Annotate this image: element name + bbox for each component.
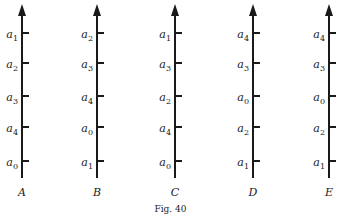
arrow-up-icon xyxy=(18,4,26,16)
tick-label: a4 xyxy=(229,29,249,44)
arrow-up-icon xyxy=(93,4,101,16)
tick-mark xyxy=(176,126,182,128)
tick-label: a0 xyxy=(0,157,18,172)
tick-mark xyxy=(254,62,260,64)
tick-mark xyxy=(23,95,29,97)
tick-mark xyxy=(330,95,336,97)
tick-label: a1 xyxy=(151,29,171,44)
tick-label: a1 xyxy=(229,157,249,172)
tick-mark xyxy=(330,32,336,34)
tick-mark xyxy=(254,32,260,34)
tick-label: a2 xyxy=(305,123,325,138)
tick-mark xyxy=(98,126,104,128)
tick-mark xyxy=(98,160,104,162)
tick-label: a3 xyxy=(305,59,325,74)
tick-label: a1 xyxy=(73,157,93,172)
figure-caption: Fig. 40 xyxy=(0,204,341,214)
arrow-up-icon xyxy=(325,4,333,16)
tick-label: a3 xyxy=(151,59,171,74)
tick-mark xyxy=(23,62,29,64)
tick-label: a1 xyxy=(0,29,18,44)
tick-mark xyxy=(330,62,336,64)
axis-name-c: C xyxy=(165,186,185,199)
tick-mark xyxy=(98,62,104,64)
tick-label: a2 xyxy=(151,92,171,107)
tick-label: a0 xyxy=(73,123,93,138)
tick-label: a0 xyxy=(305,92,325,107)
axis-name-d: D xyxy=(243,186,263,199)
tick-mark xyxy=(98,95,104,97)
arrow-up-icon xyxy=(249,4,257,16)
tick-mark xyxy=(176,62,182,64)
tick-mark xyxy=(23,160,29,162)
tick-label: a3 xyxy=(73,59,93,74)
tick-label: a2 xyxy=(0,59,18,74)
axis-name-b: B xyxy=(87,186,107,199)
tick-label: a2 xyxy=(229,123,249,138)
tick-label: a4 xyxy=(151,123,171,138)
tick-mark xyxy=(23,126,29,128)
tick-label: a4 xyxy=(73,92,93,107)
tick-label: a0 xyxy=(151,157,171,172)
tick-label: a0 xyxy=(229,92,249,107)
tick-mark xyxy=(23,32,29,34)
tick-mark xyxy=(330,126,336,128)
tick-label: a3 xyxy=(229,59,249,74)
tick-mark xyxy=(176,32,182,34)
tick-mark xyxy=(254,126,260,128)
tick-label: a2 xyxy=(73,29,93,44)
tick-mark xyxy=(330,160,336,162)
tick-label: a3 xyxy=(0,92,18,107)
arrow-up-icon xyxy=(171,4,179,16)
tick-mark xyxy=(254,95,260,97)
tick-mark xyxy=(254,160,260,162)
tick-mark xyxy=(98,32,104,34)
tick-mark xyxy=(176,95,182,97)
axis-name-a: A xyxy=(12,186,32,199)
tick-label: a4 xyxy=(305,29,325,44)
tick-label: a4 xyxy=(0,123,18,138)
axis-name-e: E xyxy=(319,186,339,199)
tick-mark xyxy=(176,160,182,162)
tick-label: a1 xyxy=(305,157,325,172)
